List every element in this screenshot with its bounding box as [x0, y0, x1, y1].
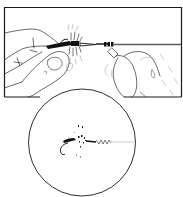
- right-hand-icon: [105, 48, 178, 97]
- fly-icon: [46, 24, 82, 71]
- inset-circle: [29, 89, 136, 196]
- fly-tying-illustration: [0, 0, 183, 197]
- top-panel-frame: [5, 8, 182, 98]
- knot-icon: [104, 42, 114, 47]
- inset-circle-border: [29, 89, 136, 196]
- top-panel: [5, 8, 182, 98]
- left-hand-icon: [5, 29, 70, 97]
- leader-line: [80, 42, 182, 47]
